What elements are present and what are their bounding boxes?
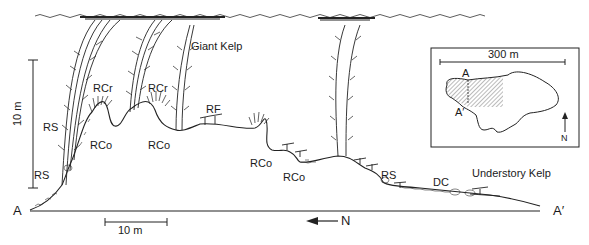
label-rcr-2: RCr <box>148 83 168 94</box>
label-rco-3: RCo <box>250 158 272 169</box>
label-point-a-prime: A′ <box>553 204 564 217</box>
inset-scale-label: 300 m <box>488 49 519 60</box>
label-dc: DC <box>433 177 449 188</box>
label-giant-kelp: Giant Kelp <box>191 41 242 52</box>
label-understory-kelp: Understory Kelp <box>472 168 551 179</box>
label-rcr-1: RCr <box>93 83 113 94</box>
inset-point-a: A <box>462 68 469 79</box>
label-rs-2: RS <box>34 170 49 181</box>
north-arrow-icon <box>306 217 338 225</box>
north-arrow-label: N <box>341 214 350 227</box>
inset-north-label: N <box>561 134 568 143</box>
inset-map <box>431 48 579 147</box>
label-rco-2: RCo <box>148 140 170 151</box>
rcr-bushes <box>89 91 269 125</box>
label-rs-3: RS <box>381 170 396 181</box>
label-rco-4: RCo <box>283 172 305 183</box>
label-point-a: A <box>13 204 22 217</box>
label-rf: RF <box>206 104 221 115</box>
label-rco-1: RCo <box>90 140 112 151</box>
inset-point-a-prime: A′ <box>455 107 464 118</box>
diagram-canvas <box>0 0 589 245</box>
label-rs-1: RS <box>43 122 58 133</box>
horizontal-scale-label: 10 m <box>118 225 142 236</box>
vertical-scale-label: 10 m <box>12 102 23 126</box>
